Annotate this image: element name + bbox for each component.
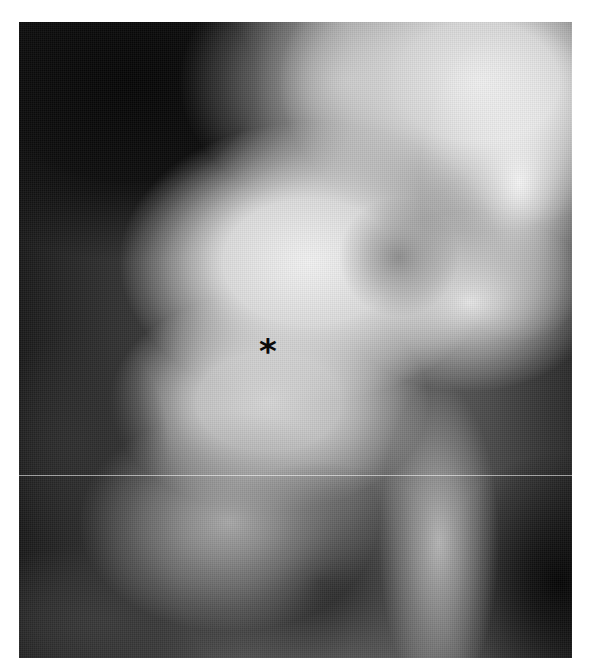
scan-line-artifact [19,475,572,476]
xray-grain [19,22,572,658]
xray-image: * [19,22,572,658]
asterisk-marker: * [259,334,277,368]
